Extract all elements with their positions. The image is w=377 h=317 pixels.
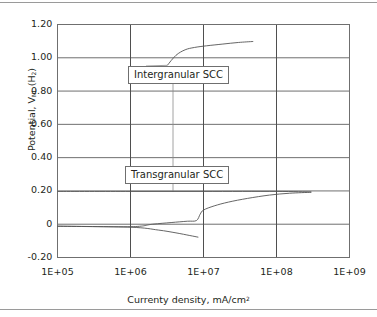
y-axis-title-text: Potential, VNL (H2) bbox=[26, 68, 37, 151]
data-series-line bbox=[58, 191, 312, 192]
y-axis-tick-label: -0.20 bbox=[0, 251, 53, 262]
annotation-transgranular-scc: Transgranular SCC bbox=[125, 166, 229, 184]
y-axis-title: Potential, VNL (H2) bbox=[20, 35, 39, 185]
annotation-intergranular-scc: Intergranular SCC bbox=[128, 66, 229, 84]
x-axis-tick-label: 1E+06 bbox=[101, 266, 161, 277]
data-series-line bbox=[58, 226, 199, 237]
x-axis-title: Currenty density, mA/cm2 bbox=[0, 288, 377, 307]
figure-container: 1.201.000.800.600.400.200-0.20 1E+051E+0… bbox=[0, 0, 377, 317]
x-axis-tick-label: 1E+07 bbox=[174, 266, 234, 277]
annotation-transgranular-label: Transgranular SCC bbox=[131, 169, 223, 180]
data-series-line bbox=[167, 41, 253, 65]
annotation-intergranular-label: Intergranular SCC bbox=[134, 69, 223, 80]
x-axis-title-text: Currenty density, mA/cm2 bbox=[127, 294, 249, 305]
y-axis-tick-label: 1.20 bbox=[0, 18, 53, 29]
y-axis-tick-label: 0.20 bbox=[0, 184, 53, 195]
x-axis-tick-label: 1E+05 bbox=[28, 266, 88, 277]
x-axis-tick-label: 1E+09 bbox=[320, 266, 377, 277]
data-series-line bbox=[58, 192, 312, 227]
y-axis-tick-label: 0 bbox=[0, 218, 53, 229]
gridlines-group bbox=[58, 25, 350, 258]
x-axis-tick-label: 1E+08 bbox=[247, 266, 307, 277]
